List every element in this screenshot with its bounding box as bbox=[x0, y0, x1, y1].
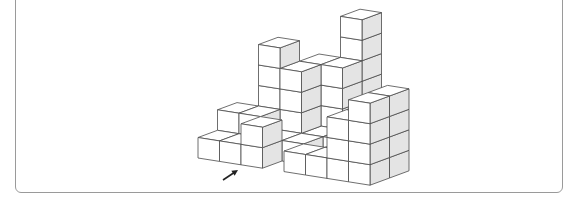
cube-front-face bbox=[220, 141, 242, 165]
cube-front-face bbox=[327, 158, 349, 182]
cube-front-face bbox=[327, 137, 349, 161]
cube-front-face bbox=[241, 124, 263, 148]
cube-stack bbox=[198, 9, 409, 185]
cube-front-face bbox=[321, 85, 343, 109]
cube-front-face bbox=[280, 89, 302, 113]
cube-front-face bbox=[241, 144, 263, 168]
view-direction-arrow-icon bbox=[223, 170, 238, 180]
cube-front-face bbox=[349, 161, 371, 185]
cube-front-face bbox=[321, 65, 343, 89]
cube-front-face bbox=[280, 68, 302, 92]
cube-front-face bbox=[218, 110, 240, 134]
cube-front-face bbox=[341, 16, 363, 40]
cube-front-face bbox=[349, 141, 371, 165]
cube-front-face bbox=[284, 151, 306, 175]
cube-front-face bbox=[198, 138, 220, 162]
cube-front-face bbox=[349, 100, 371, 124]
cube-front-face bbox=[280, 109, 302, 133]
cube-front-face bbox=[259, 86, 281, 110]
cube-front-face bbox=[259, 45, 281, 69]
cube-structure-diagram bbox=[0, 0, 569, 205]
cube-front-face bbox=[327, 117, 349, 141]
cube-front-face bbox=[306, 155, 328, 179]
cube-front-face bbox=[259, 65, 281, 89]
cube-front-face bbox=[349, 120, 371, 144]
cube-front-face bbox=[341, 37, 363, 61]
